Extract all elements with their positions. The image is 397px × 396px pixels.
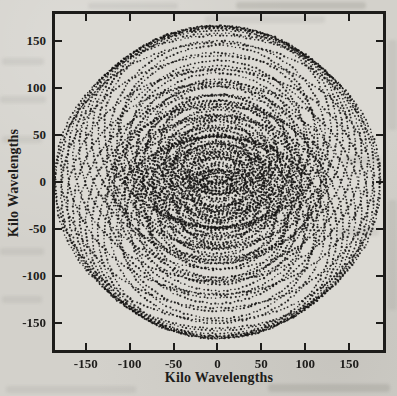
y-tick-left: [55, 275, 62, 277]
x-tick-top: [260, 14, 262, 21]
y-tick-label: 0: [2, 175, 46, 189]
y-tick-left: [55, 181, 62, 183]
y-tick-label: 50: [2, 128, 46, 142]
y-tick-left: [55, 322, 62, 324]
x-tick-top: [216, 14, 218, 21]
x-tick-bottom: [129, 343, 131, 350]
bleed-through-artifact: [236, 2, 366, 9]
y-tick-left: [55, 134, 62, 136]
x-tick-bottom: [173, 343, 175, 350]
y-tick-label: 100: [2, 81, 46, 95]
y-tick-label: -100: [2, 269, 46, 283]
y-tick-label: -150: [2, 316, 46, 330]
x-tick-top: [304, 14, 306, 21]
y-tick-left: [55, 87, 62, 89]
scanned-page: Kilo Wavelengths Kilo Wavelengths -150-1…: [0, 0, 397, 396]
y-tick-right: [376, 87, 383, 89]
x-tick-label: -150: [74, 357, 98, 371]
x-tick-bottom: [260, 343, 262, 350]
y-tick-right: [376, 322, 383, 324]
x-axis-title: Kilo Wavelengths: [52, 370, 386, 386]
x-tick-bottom: [216, 343, 218, 350]
x-tick-top: [173, 14, 175, 21]
uv-coverage-canvas: [55, 14, 383, 350]
y-tick-right: [376, 228, 383, 230]
x-tick-bottom: [304, 343, 306, 350]
uv-coverage-plot-frame: [52, 11, 386, 353]
x-tick-bottom: [348, 343, 350, 350]
bleed-through-artifact: [2, 296, 42, 303]
y-tick-right: [376, 134, 383, 136]
x-tick-bottom: [85, 343, 87, 350]
y-tick-left: [55, 40, 62, 42]
bleed-through-artifact: [388, 40, 397, 130]
y-tick-left: [55, 228, 62, 230]
x-tick-top: [129, 14, 131, 21]
x-tick-top: [348, 14, 350, 21]
x-tick-top: [85, 14, 87, 21]
x-tick-label: 150: [339, 357, 359, 371]
x-tick-label: 50: [255, 357, 268, 371]
x-tick-label: 100: [296, 357, 316, 371]
y-tick-label: -50: [2, 222, 46, 236]
y-tick-label: 150: [2, 34, 46, 48]
x-tick-label: 0: [214, 357, 221, 371]
y-tick-right: [376, 275, 383, 277]
x-tick-label: -50: [165, 357, 182, 371]
bleed-through-artifact: [6, 386, 136, 393]
y-tick-right: [376, 181, 383, 183]
bleed-through-artifact: [388, 200, 397, 310]
y-tick-right: [376, 40, 383, 42]
x-tick-label: -100: [118, 357, 142, 371]
bleed-through-artifact: [2, 58, 44, 65]
bleed-through-artifact: [88, 3, 178, 9]
